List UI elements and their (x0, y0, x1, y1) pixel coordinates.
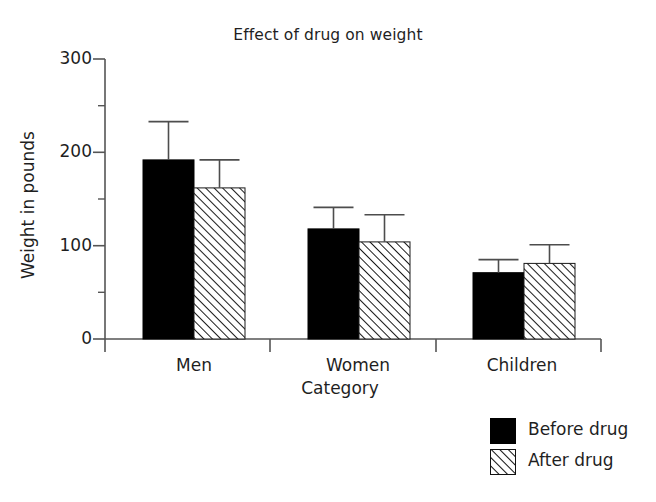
plot-area (0, 0, 656, 502)
bar-women-after-drug[interactable] (359, 215, 410, 339)
chart-figure: Effect of drug on weight Weight in pound… (0, 0, 656, 502)
bar-children-before-drug[interactable] (473, 260, 524, 339)
x-axis-ticks (105, 339, 601, 352)
error-bar-men-before-drug (149, 122, 189, 160)
error-bar-women-before-drug (314, 207, 354, 229)
bar-women-before-drug[interactable] (308, 207, 359, 339)
bar-children-after-drug[interactable] (524, 245, 575, 339)
error-bar-children-before-drug (479, 260, 519, 273)
error-bar-women-after-drug (365, 215, 405, 242)
y-axis-ticks-minor (98, 106, 105, 293)
bar-men-after-drug[interactable] (194, 160, 245, 339)
error-bar-men-after-drug (200, 160, 240, 188)
bar-men-before-drug[interactable] (143, 122, 194, 339)
error-bar-children-after-drug (530, 245, 570, 264)
